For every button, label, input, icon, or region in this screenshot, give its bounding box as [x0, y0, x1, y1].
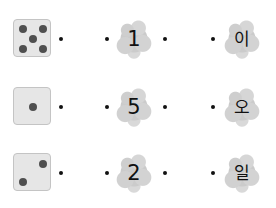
match-row-1: 1 이: [0, 10, 276, 70]
die-connect-dot[interactable]: [59, 105, 63, 109]
die-pip: [39, 45, 47, 53]
numeral-right-dot[interactable]: [163, 105, 167, 109]
match-row-3: 2 일: [0, 144, 276, 204]
die-pip: [19, 25, 27, 33]
numeral-right-dot[interactable]: [163, 171, 167, 175]
die-pip: [39, 160, 47, 168]
korean-label: 오: [220, 85, 264, 129]
numeral-label: 5: [112, 85, 156, 129]
die-one: [13, 87, 51, 125]
die-pip: [19, 45, 27, 53]
numeral-right-dot[interactable]: [163, 37, 167, 41]
die-five: [13, 19, 51, 57]
die-pip: [19, 178, 27, 186]
die-connect-dot[interactable]: [59, 171, 63, 175]
match-row-2: 5 오: [0, 78, 276, 138]
numeral-label: 1: [112, 17, 156, 61]
korean-dot[interactable]: [211, 37, 215, 41]
die-pip: [29, 35, 37, 43]
die-pip: [39, 25, 47, 33]
korean-label: 이: [220, 17, 264, 61]
die-two: [13, 153, 51, 191]
numeral-label: 2: [112, 151, 156, 195]
korean-dot[interactable]: [211, 105, 215, 109]
numeral-left-dot[interactable]: [105, 105, 109, 109]
die-pip: [29, 103, 37, 111]
numeral-left-dot[interactable]: [105, 37, 109, 41]
korean-dot[interactable]: [211, 171, 215, 175]
korean-label: 일: [220, 151, 264, 195]
numeral-left-dot[interactable]: [105, 171, 109, 175]
die-connect-dot[interactable]: [59, 37, 63, 41]
